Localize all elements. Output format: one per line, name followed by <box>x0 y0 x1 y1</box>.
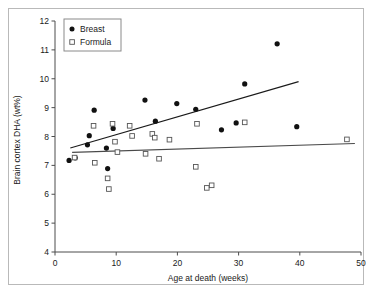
data-point-formula <box>143 152 148 157</box>
trendline-breast <box>70 82 298 148</box>
data-point-breast <box>275 41 280 46</box>
data-point-breast <box>104 145 109 150</box>
x-axis-tick-label: 30 <box>234 258 244 268</box>
legend-marker-formula <box>70 40 75 45</box>
y-axis-tick-label: 8 <box>44 132 49 142</box>
data-point-formula <box>115 150 120 155</box>
data-point-formula <box>105 176 110 181</box>
data-point-formula <box>107 187 112 192</box>
legend-label-formula: Formula <box>80 37 111 47</box>
y-axis-tick-label: 9 <box>44 103 49 113</box>
x-axis: 01020304050 <box>53 252 366 268</box>
data-point-breast <box>66 158 71 163</box>
data-point-formula <box>242 120 247 125</box>
data-point-breast <box>174 101 179 106</box>
x-axis-tick-label: 10 <box>111 258 121 268</box>
data-point-formula <box>130 134 135 139</box>
x-axis-tick-label: 50 <box>356 258 366 268</box>
legend-marker-breast <box>70 27 75 32</box>
y-axis-tick-label: 4 <box>44 247 49 257</box>
data-point-breast <box>105 166 110 171</box>
y-axis: 456789101112 <box>40 16 55 257</box>
data-point-breast <box>111 126 116 131</box>
y-axis-tick-label: 10 <box>40 74 50 84</box>
data-point-formula <box>204 186 209 191</box>
data-point-formula <box>152 135 157 140</box>
data-point-formula <box>195 121 200 126</box>
data-point-breast <box>234 120 239 125</box>
data-points <box>66 41 349 191</box>
data-point-breast <box>87 133 92 138</box>
data-point-formula <box>92 160 97 165</box>
data-point-formula <box>209 183 214 188</box>
legend-label-breast: Breast <box>80 24 105 34</box>
chart-legend: BreastFormula <box>64 19 121 51</box>
data-point-formula <box>91 124 96 129</box>
x-axis-tick-label: 0 <box>53 258 58 268</box>
y-axis-title: Brain cortex DHA (wt%) <box>12 95 22 184</box>
data-point-formula <box>113 139 118 144</box>
data-point-breast <box>219 127 224 132</box>
data-point-formula <box>167 137 172 142</box>
data-point-breast <box>142 98 147 103</box>
data-point-breast <box>92 108 97 113</box>
data-point-breast <box>294 124 299 129</box>
data-point-formula <box>110 121 115 126</box>
y-axis-tick-label: 12 <box>40 16 50 26</box>
y-axis-tick-label: 6 <box>44 189 49 199</box>
y-axis-tick-label: 5 <box>44 218 49 228</box>
figure-container: 456789101112 01020304050 BreastFormula A… <box>0 0 392 299</box>
x-axis-tick-label: 40 <box>295 258 305 268</box>
data-point-breast <box>193 107 198 112</box>
x-axis-title: Age at death (weeks) <box>168 273 248 283</box>
data-point-formula <box>127 124 132 129</box>
data-point-formula <box>345 137 350 142</box>
y-axis-tick-label: 11 <box>40 45 49 55</box>
data-point-breast <box>242 81 247 86</box>
data-point-formula <box>193 165 198 170</box>
y-axis-tick-label: 7 <box>44 160 49 170</box>
scatter-plot: 456789101112 01020304050 BreastFormula A… <box>0 0 392 299</box>
x-axis-tick-label: 20 <box>173 258 183 268</box>
data-point-formula <box>72 155 77 160</box>
data-point-breast <box>153 119 158 124</box>
trendline-formula <box>72 143 355 152</box>
data-point-formula <box>157 156 162 161</box>
data-point-breast <box>85 142 90 147</box>
